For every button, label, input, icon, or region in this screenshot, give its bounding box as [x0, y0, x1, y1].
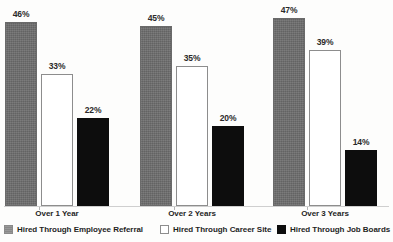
bar — [140, 26, 172, 206]
bar — [212, 126, 244, 206]
bar-chart: 46%33%22%45%35%20%47%39%14% Over 1 YearO… — [0, 0, 393, 242]
legend-item[interactable]: Hired Through Career Site — [160, 225, 271, 234]
bar — [273, 18, 305, 206]
category-label: Over 2 Years — [142, 209, 242, 218]
bar — [345, 150, 377, 206]
bar — [77, 118, 109, 206]
axis-tick — [307, 207, 308, 210]
bar-value-label: 45% — [148, 13, 165, 23]
axis-tick — [174, 207, 175, 210]
legend-label: Hired Through Employee Referral — [17, 225, 143, 234]
bar-value-label: 22% — [85, 105, 102, 115]
bar-value-label: 39% — [317, 37, 334, 47]
legend-swatch-icon — [277, 225, 286, 234]
category-label: Over 3 Years — [275, 209, 375, 218]
legend-item[interactable]: Hired Through Employee Referral — [4, 225, 143, 234]
bar — [309, 50, 341, 206]
chart-legend: Hired Through Employee ReferralHired Thr… — [0, 224, 393, 238]
x-axis-line — [4, 206, 389, 207]
bar-value-label: 33% — [49, 61, 66, 71]
bar — [176, 66, 208, 206]
legend-label: Hired Through Career Site — [173, 225, 271, 234]
bar-value-label: 20% — [220, 113, 237, 123]
legend-label: Hired Through Job Boards — [290, 225, 390, 234]
legend-swatch-icon — [4, 225, 13, 234]
bar-value-label: 47% — [281, 5, 298, 15]
bar-value-label: 46% — [13, 9, 30, 19]
bar — [41, 74, 73, 206]
axis-tick — [39, 207, 40, 210]
category-label: Over 1 Year — [7, 209, 107, 218]
legend-item[interactable]: Hired Through Job Boards — [277, 225, 390, 234]
bar-value-label: 14% — [353, 137, 370, 147]
legend-swatch-icon — [160, 225, 169, 234]
bar — [5, 22, 37, 206]
bar-value-label: 35% — [184, 53, 201, 63]
